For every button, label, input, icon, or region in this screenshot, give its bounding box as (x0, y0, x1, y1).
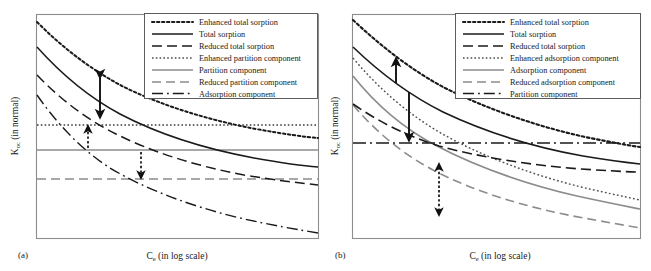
curve-adsorption-component (37, 95, 318, 233)
legend-label-0: Enhanced total sorption (510, 18, 590, 27)
legend-label-5: Reduced adsorption component (510, 78, 616, 87)
figure-sorption-isotherms: Enhanced total sorption Total sorption R… (0, 0, 651, 271)
panel-tag-b: (b) (335, 250, 346, 260)
curve-reduced-total-sorption (353, 104, 640, 172)
y-axis-label-b: Koc (in normal) (330, 97, 341, 155)
legend-label-6: Adsorption component (199, 90, 276, 99)
panel-a: Enhanced total sorption Total sorption R… (0, 0, 325, 271)
legend-a: Enhanced total sorption Total sorption R… (145, 14, 318, 99)
annotations-b (396, 62, 439, 212)
legend-label-1: Total sorption (199, 30, 246, 39)
x-axis-label-a: Ce (in log scale) (146, 251, 207, 262)
panel-a-canvas: Enhanced total sorption Total sorption R… (0, 0, 325, 271)
panel-b-canvas: Enhanced total sorption Total sorption R… (325, 0, 651, 271)
legend-label-4: Adsorption component (510, 66, 587, 75)
legend-b: Enhanced total sorption Total sorption R… (456, 14, 641, 99)
legend-label-4: Partition component (199, 66, 267, 75)
panel-tag-a: (a) (18, 250, 28, 260)
legend-label-2: Reduced total sorption (510, 42, 586, 51)
x-axis-label-b: Ce (in log scale) (469, 251, 530, 262)
legend-label-5: Reduced partition component (199, 78, 298, 87)
legend-label-1: Total sorption (510, 30, 557, 39)
legend-label-3: Enhanced partition component (199, 54, 302, 63)
legend-label-3: Enhanced adsorption component (510, 54, 619, 63)
legend-label-6: Partition component (510, 90, 578, 99)
panel-b: Enhanced total sorption Total sorption R… (325, 0, 650, 271)
legend-label-2: Reduced total sorption (199, 42, 275, 51)
y-axis-label-a: Koc (in normal) (10, 97, 21, 155)
curve-reduced-adsorption-component (353, 105, 640, 228)
legend-label-0: Enhanced total sorption (199, 18, 279, 27)
